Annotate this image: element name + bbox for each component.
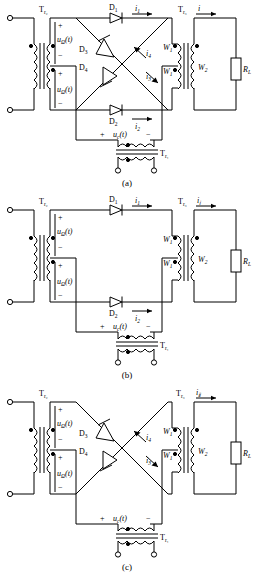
- label-winding-w1-bottom: W1: [163, 67, 173, 77]
- carrier-wire-left: [76, 258, 118, 332]
- panel-a: Tr₂ + uΩ(t) − + uΩ(t) − D1 D2 D3 D4 i1 i…: [0, 0, 255, 192]
- label-current-i4: i4: [146, 49, 151, 59]
- label-polarity-mid-minus: −: [58, 51, 63, 60]
- label-load-rl: RL: [242, 257, 251, 267]
- tr3-primary-coil: [178, 428, 181, 473]
- label-winding-w2: W2: [198, 63, 208, 73]
- tr2-secondary-coil: [47, 428, 50, 473]
- label-diode-d4: D4: [79, 447, 88, 457]
- label-tr3: Tr₃: [178, 197, 187, 207]
- label-tr1: Tr₁: [160, 533, 169, 543]
- label-polarity-mid-minus: −: [58, 243, 63, 252]
- input-terminal-top: [7, 207, 12, 212]
- diode-d2-triangle: [110, 297, 122, 307]
- carrier-terminal-right: [151, 552, 156, 557]
- current-arrow-i2: [132, 117, 152, 122]
- label-carrier-plus: +: [100, 514, 105, 523]
- input-wire-top: [13, 402, 34, 428]
- label-polarity-bottom-minus: −: [58, 99, 63, 108]
- label-diode-d4: D4: [79, 63, 88, 73]
- label-carrier-minus: −: [146, 322, 151, 331]
- load-resistor: [231, 58, 241, 80]
- tr2-dot-centre: [51, 68, 54, 71]
- caption-b: (b): [122, 370, 133, 380]
- label-current-i-out: iⅱ: [196, 388, 202, 398]
- tr1-dot-lower: [126, 350, 129, 353]
- label-tr2: Tr₂: [39, 389, 48, 399]
- load-wire-bottom: [194, 272, 236, 302]
- right-bus-bottom: [168, 472, 172, 494]
- diode-d1-triangle: [110, 13, 122, 23]
- label-winding-w2: W2: [198, 447, 208, 457]
- tr3-dot-primary-top: [173, 428, 176, 431]
- diode-d3-triangle: [96, 423, 114, 441]
- input-wire-top: [13, 18, 34, 44]
- tr3-primary-coil: [178, 44, 181, 89]
- label-diode-d2: D2: [109, 309, 118, 319]
- load-resistor: [231, 250, 241, 272]
- tr3-primary-coil: [178, 236, 181, 281]
- input-terminal-bottom: [7, 299, 12, 304]
- tr3-secondary-coil: [191, 428, 194, 473]
- tr2-secondary-coil: [47, 44, 50, 89]
- label-current-i2: i2: [135, 122, 140, 132]
- load-wire-top: [194, 210, 236, 250]
- load-wire-top: [194, 402, 236, 442]
- label-diode-d1: D1: [109, 3, 118, 13]
- tr1-dot-upper: [126, 527, 129, 530]
- label-signal-bottom: uΩ(t): [57, 277, 73, 287]
- input-terminal-top: [7, 15, 12, 20]
- label-diode-d3: D3: [79, 429, 88, 439]
- tr3-dot-secondary: [195, 44, 198, 47]
- label-signal-top: uΩ(t): [57, 35, 73, 45]
- tr2-secondary-coil: [47, 236, 50, 281]
- label-tr3: Tr₃: [176, 389, 185, 399]
- tr2-dot-centre: [51, 452, 54, 455]
- tr1-upper-coil: [118, 336, 154, 339]
- diode-d2-triangle: [110, 105, 122, 115]
- tr2-dot-secondary: [51, 428, 54, 431]
- label-current-i-out: i: [198, 4, 200, 13]
- label-tr2: Tr₂: [39, 197, 48, 207]
- tr1-dot-upper: [126, 143, 129, 146]
- label-winding-w1-top: W1: [163, 235, 173, 245]
- label-carrier: uc(t): [113, 514, 127, 524]
- tr3-dot-primary-mid: [173, 260, 176, 263]
- label-diode-d3: D3: [79, 45, 88, 55]
- input-wire-bottom: [13, 280, 34, 302]
- label-load-rl: RL: [242, 449, 251, 459]
- label-carrier-plus: +: [100, 322, 105, 331]
- label-carrier-minus: −: [146, 130, 151, 139]
- panel-b: Tr₂ + uΩ(t) − + uΩ(t) − D1 D2 i1 i2 iⅰ T…: [0, 192, 255, 384]
- tr2-dot-primary: [29, 44, 32, 47]
- input-wire-bottom: [13, 88, 34, 110]
- tr2-primary-coil: [34, 236, 37, 281]
- current-arrow-i2: [132, 309, 152, 314]
- tr1-dot-lower: [126, 158, 129, 161]
- label-current-i2: i2: [135, 314, 140, 324]
- label-winding-w1-bottom: W1: [163, 451, 173, 461]
- input-terminal-top: [7, 399, 12, 404]
- load-resistor: [231, 442, 241, 464]
- current-arrow-i4: [134, 47, 146, 58]
- tr2-dot-secondary: [51, 44, 54, 47]
- diode-d3-triangle: [96, 39, 114, 57]
- label-diode-d2: D2: [109, 117, 118, 127]
- tr2-dot-primary: [29, 236, 32, 239]
- current-arrow-i4: [134, 431, 146, 442]
- carrier-terminal-left: [115, 360, 120, 365]
- tr1-lower-coil: [118, 541, 154, 544]
- label-tr3: Tr₃: [178, 5, 187, 15]
- label-polarity-mid-plus: +: [58, 261, 63, 270]
- label-current-i4: i4: [146, 433, 151, 443]
- label-load-rl: RL: [242, 65, 251, 75]
- label-carrier: uc(t): [113, 130, 127, 140]
- tr2-dot-primary: [29, 428, 32, 431]
- label-tr2: Tr₂: [39, 5, 48, 15]
- label-signal-bottom: uΩ(t): [57, 469, 73, 479]
- label-signal-bottom: uΩ(t): [57, 85, 73, 95]
- label-current-i1: i1: [135, 196, 140, 206]
- label-carrier: uc(t): [113, 322, 127, 332]
- tr2-primary-coil: [34, 44, 37, 89]
- tr3-dot-secondary: [195, 428, 198, 431]
